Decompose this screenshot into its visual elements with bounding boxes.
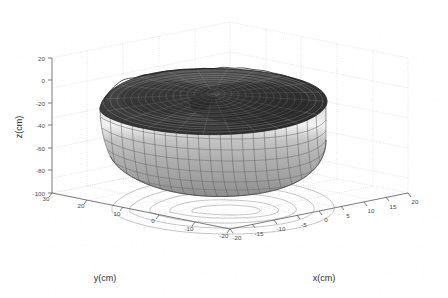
z-tick-label: 0: [42, 77, 46, 84]
surface-plot: 20 0 -20 -40 -60 -80 -100 30 20 10 0 -10…: [0, 0, 448, 298]
x-tick-label: 15: [390, 203, 397, 210]
x-tick-label: 10: [368, 207, 375, 214]
z-tick-label: -80: [36, 167, 46, 174]
y-tick-label: -10: [185, 225, 195, 232]
x-axis-tick-labels: -20 -15 -10 -5 0 5 10 15 20: [233, 198, 419, 241]
y-tick-label: 0: [151, 217, 155, 224]
z-axis-title: z(cm): [14, 116, 24, 139]
x-tick-label: 0: [324, 216, 328, 223]
z-tick-label: -40: [36, 122, 46, 129]
y-tick-label: -20: [220, 232, 230, 239]
y-tick-label: 30: [43, 195, 50, 202]
x-tick-label: -15: [255, 230, 265, 237]
surface-body: [99, 67, 328, 198]
z-tick-label: -60: [36, 145, 46, 152]
y-tick-label: 20: [78, 202, 85, 209]
x-axis-title: x(cm): [313, 273, 336, 283]
figure-canvas: 20 0 -20 -40 -60 -80 -100 30 20 10 0 -10…: [0, 0, 448, 298]
y-axis-title: y(cm): [94, 273, 117, 283]
x-tick-label: -20: [233, 234, 243, 241]
z-axis-ticks: [48, 58, 52, 193]
z-tick-label: -20: [36, 100, 46, 107]
x-tick-label: -5: [301, 221, 307, 228]
y-axis-ticks: [49, 193, 230, 233]
y-tick-label: 10: [114, 210, 121, 217]
x-tick-label: -10: [277, 225, 287, 232]
z-tick-label: 20: [38, 55, 45, 62]
x-tick-label: 20: [412, 198, 419, 205]
z-axis-tick-labels: 20 0 -20 -40 -60 -80 -100: [33, 55, 46, 197]
x-tick-label: 5: [346, 212, 350, 219]
y-axis-line: [52, 193, 230, 229]
